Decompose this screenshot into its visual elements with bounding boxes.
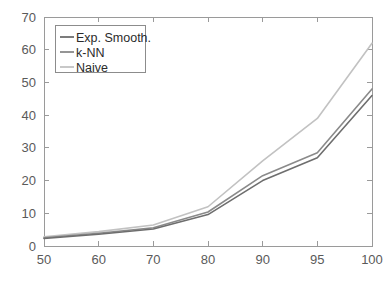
legend-label-2: k-NN <box>76 46 104 60</box>
legend-label-1: Exp. Smooth. <box>76 31 151 45</box>
y-tick-label: 60 <box>22 42 36 57</box>
line-chart: 010203040506070 506070809095100 Exp. Smo… <box>0 0 390 287</box>
x-tick-label: 50 <box>37 252 51 267</box>
series-line-exp-smooth <box>44 96 372 239</box>
legend-label-3: Naive <box>76 61 108 75</box>
chart-container: 010203040506070 506070809095100 Exp. Smo… <box>0 0 390 287</box>
chart-legend: Exp. Smooth.k-NNNaive <box>55 25 151 75</box>
y-tick-label: 50 <box>22 75 36 90</box>
x-tick-label: 95 <box>310 252 324 267</box>
x-tick-label: 100 <box>361 252 383 267</box>
y-tick-label: 40 <box>22 108 36 123</box>
x-tick-label: 80 <box>201 252 215 267</box>
y-tick-label: 0 <box>29 239 36 254</box>
y-tick-label: 10 <box>22 206 36 221</box>
x-tick-label: 70 <box>146 252 160 267</box>
y-tick-label: 30 <box>22 140 36 155</box>
x-tick-label: 90 <box>255 252 269 267</box>
y-tick-label: 70 <box>22 10 36 25</box>
y-tick-label: 20 <box>22 173 36 188</box>
x-tick-label: 60 <box>91 252 105 267</box>
